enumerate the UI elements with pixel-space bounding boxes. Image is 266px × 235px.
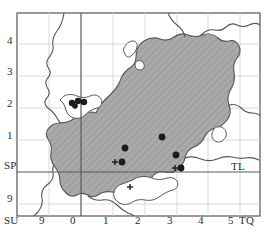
axis-label-x-5: 5 <box>228 215 234 226</box>
axis-label-y-4: 4 <box>7 35 13 46</box>
data-point-dot <box>173 152 180 159</box>
grid-square-label-tq: TQ <box>239 215 254 226</box>
axis-label-y-9: 9 <box>7 193 13 204</box>
grid-square-label-su: SU <box>4 215 18 226</box>
data-point-dot <box>81 99 87 105</box>
axis-label-x-4: 4 <box>198 215 204 226</box>
data-point-dot <box>159 134 166 141</box>
data-point-dot <box>75 98 81 104</box>
data-point-dot <box>178 165 185 172</box>
data-point-dot <box>119 159 126 166</box>
grid-square-label-tl: TL <box>231 161 245 172</box>
axis-label-x-3: 3 <box>167 215 173 226</box>
axis-label-x-1: 1 <box>103 215 109 226</box>
axis-label-x-9: 9 <box>39 215 45 226</box>
data-points-layer <box>0 0 266 235</box>
distribution-map-figure: 4 3 2 1 SP 9 SU 9 0 1 2 3 4 5 TL TQ <box>0 0 266 235</box>
axis-label-y-2: 2 <box>7 98 13 109</box>
axis-label-y-1: 1 <box>7 130 13 141</box>
grid-square-label-sp: SP <box>4 160 17 171</box>
data-point-dot <box>122 145 129 152</box>
axis-label-y-3: 3 <box>7 66 13 77</box>
axis-label-x-0: 0 <box>70 215 76 226</box>
data-point-cross <box>172 165 178 171</box>
data-point-cross <box>112 159 118 165</box>
data-point-dot <box>72 103 78 109</box>
axis-label-x-2: 2 <box>135 215 141 226</box>
data-point-cross <box>127 184 133 190</box>
